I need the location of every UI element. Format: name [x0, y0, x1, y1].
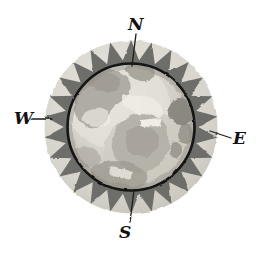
compass-label-north: N	[128, 16, 144, 33]
compass-label-west: W	[14, 110, 33, 127]
compass-svg	[0, 0, 265, 262]
compass-figure	[0, 0, 265, 262]
compass-label-south: S	[119, 224, 131, 241]
compass-label-east: E	[233, 130, 246, 147]
